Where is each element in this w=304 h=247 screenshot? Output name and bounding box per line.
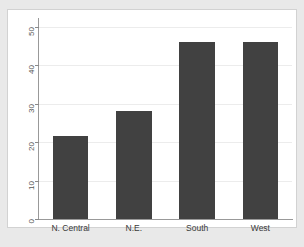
plot-frame: 01020304050 N. CentralN.E.SouthWest (7, 9, 297, 228)
x-axis-label: N.E. (102, 223, 165, 233)
y-tick-label: 20 (28, 142, 36, 151)
gridline (39, 27, 292, 28)
x-axis-line (38, 219, 293, 220)
chart-figure: 01020304050 N. CentralN.E.SouthWest (0, 0, 304, 247)
x-axis-label: West (229, 223, 292, 233)
y-tick-label: 10 (28, 181, 36, 190)
bar (116, 111, 151, 219)
x-axis-label: N. Central (39, 223, 102, 233)
plot-area: 01020304050 N. CentralN.E.SouthWest (39, 27, 292, 219)
bar (53, 136, 88, 219)
bar (179, 42, 214, 219)
y-axis-line (38, 18, 39, 219)
x-axis-label: South (166, 223, 229, 233)
y-tick-label: 0 (28, 219, 36, 223)
y-tick-label: 50 (28, 27, 36, 36)
y-tick-label: 30 (28, 104, 36, 113)
y-tick-label: 40 (28, 65, 36, 74)
bar (243, 42, 278, 219)
clipped-caption-above (26, 0, 226, 2)
